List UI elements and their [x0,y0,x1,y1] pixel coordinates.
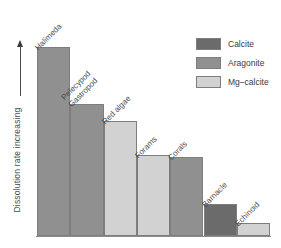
legend-label: Calcite [228,39,254,49]
bar [70,104,103,236]
x-axis-baseline [36,236,271,237]
legend-label: Aragonite [228,58,264,68]
legend-swatch [196,76,221,88]
bar [104,121,137,236]
bar [137,155,170,236]
legend-swatch [196,38,221,50]
bar [37,47,70,236]
legend: CalciteAragoniteMg–calcite [196,36,280,93]
legend-item: Aragonite [196,55,280,70]
bar [204,204,237,236]
legend-item: Calcite [196,36,280,51]
legend-label: Mg–calcite [228,77,269,87]
y-axis: Dissolution rate increasing [0,0,34,248]
bar [170,157,203,236]
legend-swatch [196,57,221,69]
y-axis-label: Dissolution rate increasing [12,80,22,240]
dissolution-rate-bar-chart: Dissolution rate increasing HalimedaPele… [0,0,281,248]
legend-item: Mg–calcite [196,74,280,89]
